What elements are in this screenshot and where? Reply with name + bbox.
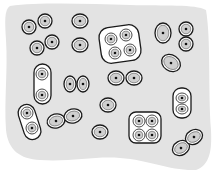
- cell-nucleus: [151, 134, 154, 137]
- cell-nucleus: [79, 44, 82, 47]
- cell-nucleus: [82, 83, 85, 86]
- cell-group-tetrad: [98, 23, 143, 64]
- cell: [64, 76, 76, 92]
- cell: [108, 71, 124, 85]
- cell-group-single: [45, 35, 59, 49]
- cell: [22, 20, 36, 34]
- cell: [155, 23, 171, 43]
- cell-nucleus: [181, 108, 184, 111]
- cell: [126, 71, 142, 85]
- cell: [135, 131, 143, 139]
- cell-nucleus: [138, 134, 141, 137]
- cell: [100, 98, 116, 112]
- cell: [72, 14, 88, 28]
- cell-group-single: [92, 125, 108, 139]
- cell: [179, 22, 193, 36]
- cell-nucleus: [107, 104, 110, 107]
- cell-group-pair-capsule: [173, 88, 191, 118]
- tetrad-envelope: [98, 23, 143, 64]
- cell: [38, 14, 52, 28]
- cell-group-single: [30, 41, 44, 55]
- cell: [38, 91, 46, 99]
- cell: [178, 95, 186, 101]
- cell-group-single: [72, 38, 88, 52]
- cell: [178, 106, 186, 112]
- cell-nucleus: [181, 97, 184, 100]
- cell-group-pair-capsule: [34, 64, 51, 104]
- cell-nucleus: [44, 20, 47, 23]
- cell-nucleus: [41, 73, 44, 76]
- cell-nucleus: [133, 77, 136, 80]
- cell-nucleus: [151, 120, 154, 123]
- cell-group-single: [155, 23, 171, 43]
- cell-nucleus: [185, 43, 188, 46]
- cell-nucleus: [115, 77, 118, 80]
- cell-nucleus: [69, 83, 72, 86]
- cell: [77, 76, 89, 92]
- cell: [92, 125, 108, 139]
- cell-arrangement-diagram: [0, 0, 213, 173]
- cell: [179, 37, 193, 51]
- cell-nucleus: [162, 32, 165, 35]
- cell: [45, 35, 59, 49]
- cell-group-single: [72, 14, 88, 28]
- diagram-canvas: [0, 0, 213, 173]
- cell-group-single: [100, 98, 116, 112]
- cell: [135, 117, 143, 125]
- cell: [148, 131, 156, 139]
- cell: [38, 70, 46, 78]
- cell-nucleus: [28, 26, 31, 29]
- cell-nucleus: [51, 41, 54, 44]
- cell-group-single: [22, 20, 36, 34]
- cell-nucleus: [99, 131, 102, 134]
- cell-group-tetrad: [129, 112, 161, 143]
- cell-nucleus: [36, 47, 39, 50]
- cell-nucleus: [41, 94, 44, 97]
- cell-nucleus: [138, 120, 141, 123]
- cell: [30, 41, 44, 55]
- cell-group-single: [38, 14, 52, 28]
- cell: [148, 117, 156, 125]
- cell-nucleus: [79, 20, 82, 23]
- cell: [72, 38, 88, 52]
- cell-nucleus: [185, 28, 188, 31]
